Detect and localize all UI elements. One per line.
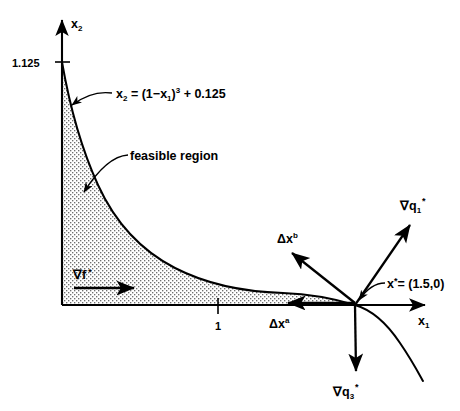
constraint-equation-text: x2 = (1−x1)3 + 0.125 bbox=[116, 86, 226, 103]
feasible-region-annotation: feasible region bbox=[84, 149, 218, 192]
grad-q1-label: ∇q1* bbox=[399, 196, 426, 215]
feasible-region-diagram: x2 x1 1.125 1 x2 = (1−x1)3 + 0.125 feasi… bbox=[0, 0, 460, 411]
delta-x-a-label: Δxa bbox=[269, 316, 290, 331]
delta-x-a-vector: Δxa bbox=[269, 303, 355, 331]
grad-q3-vector: ∇q3* bbox=[332, 305, 359, 401]
delta-x-b-vector: Δxb bbox=[277, 231, 355, 303]
grad-q3-label: ∇q3* bbox=[332, 382, 359, 401]
grad-q3-arrow bbox=[355, 305, 356, 371]
grad-q1-arrow bbox=[355, 225, 410, 305]
y-axis-label: x2 bbox=[71, 17, 83, 33]
delta-x-b-label: Δxb bbox=[277, 231, 298, 246]
y-axis-tick-label: 1.125 bbox=[12, 57, 40, 69]
x-axis-tick-label: 1 bbox=[215, 320, 221, 332]
equation-leader-line bbox=[72, 93, 112, 105]
figure-container: x2 x1 1.125 1 x2 = (1−x1)3 + 0.125 feasi… bbox=[0, 0, 460, 411]
optimum-point-label: x*= (1.5,0) bbox=[387, 276, 444, 291]
feasible-region-label: feasible region bbox=[130, 149, 218, 163]
constraint-equation-annotation: x2 = (1−x1)3 + 0.125 bbox=[72, 86, 226, 105]
x-axis-label: x1 bbox=[418, 314, 430, 330]
